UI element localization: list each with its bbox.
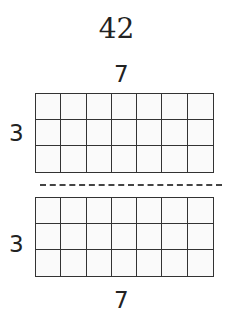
grid-cell: [188, 146, 213, 172]
grid-cell: [61, 94, 86, 120]
bottom-array-grid: [35, 197, 214, 277]
grid-cell: [87, 146, 112, 172]
grid-cell: [112, 94, 137, 120]
dashed-separator: [40, 184, 222, 186]
grid-cell: [87, 250, 112, 276]
grid-cell: [137, 120, 162, 146]
grid-cell: [162, 120, 187, 146]
grid-cell: [162, 198, 187, 224]
grid-cell: [112, 146, 137, 172]
grid-cell: [112, 250, 137, 276]
grid-cell: [188, 250, 213, 276]
grid-cell: [162, 224, 187, 250]
grid-cell: [188, 224, 213, 250]
grid-cell: [162, 94, 187, 120]
grid-cell: [61, 120, 86, 146]
grid-cell: [87, 120, 112, 146]
top-array-grid: [35, 93, 214, 173]
grid-cell: [137, 224, 162, 250]
grid-cell: [112, 120, 137, 146]
grid-cell: [188, 198, 213, 224]
grid-cell: [36, 224, 61, 250]
grid-cell: [112, 198, 137, 224]
grid-cell: [188, 94, 213, 120]
grid-cell: [36, 250, 61, 276]
grid-cell: [162, 250, 187, 276]
total-label: 42: [0, 12, 233, 46]
grid-cell: [87, 224, 112, 250]
grid-cell: [112, 224, 137, 250]
grid-cell: [61, 224, 86, 250]
grid-cell: [188, 120, 213, 146]
grid-cell: [137, 94, 162, 120]
grid-cell: [87, 94, 112, 120]
grid-cell: [36, 94, 61, 120]
grid-cell: [36, 198, 61, 224]
grid-cell: [36, 146, 61, 172]
top-rows-label: 3: [9, 120, 24, 146]
bottom-rows-label: 3: [9, 231, 24, 257]
grid-cell: [87, 198, 112, 224]
grid-cell: [137, 198, 162, 224]
bottom-columns-label: 7: [114, 287, 129, 313]
grid-cell: [137, 146, 162, 172]
grid-cell: [137, 250, 162, 276]
grid-cell: [61, 146, 86, 172]
top-columns-label: 7: [114, 61, 129, 87]
grid-cell: [61, 250, 86, 276]
grid-cell: [162, 146, 187, 172]
grid-cell: [61, 198, 86, 224]
grid-cell: [36, 120, 61, 146]
